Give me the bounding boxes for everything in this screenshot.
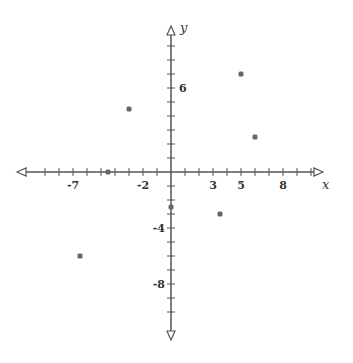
tick-labels: -7-23586-4-8: [67, 82, 287, 291]
x-tick-label: -2: [137, 179, 149, 192]
data-point: [253, 135, 258, 140]
x-tick-label: 5: [237, 179, 245, 192]
y-tick-label: 6: [179, 82, 187, 95]
x-axis-right-arrow-icon: [314, 168, 323, 176]
data-point: [239, 72, 244, 77]
y-axis-down-arrow-icon: [167, 331, 175, 340]
data-point: [78, 254, 83, 259]
x-tick-label: 8: [279, 179, 287, 192]
x-axis-left-arrow-icon: [17, 168, 26, 176]
y-axis-up-arrow-icon: [167, 26, 175, 35]
y-tick-label: -8: [153, 278, 166, 291]
data-point: [127, 107, 132, 112]
y-axis-label: y: [179, 20, 188, 35]
data-points: [78, 72, 258, 259]
data-point: [169, 205, 174, 210]
axes: [17, 26, 323, 340]
x-axis-label: x: [322, 177, 330, 192]
coordinate-plane: -7-23586-4-8 x y: [0, 0, 353, 363]
x-tick-label: 3: [209, 179, 217, 192]
x-tick-label: -7: [67, 179, 79, 192]
y-tick-label: -4: [153, 222, 166, 235]
data-point: [218, 212, 223, 217]
data-point: [106, 170, 111, 175]
axis-ticks: [45, 46, 311, 312]
